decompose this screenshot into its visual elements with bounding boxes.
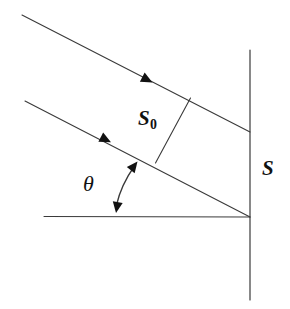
beam-width-label-base: S <box>138 106 150 130</box>
angle-arc-arrowhead-lower <box>111 201 123 213</box>
upper-beam-ray <box>22 15 250 132</box>
diagram-canvas: S0 S θ <box>0 0 290 309</box>
beam-width-label: S0 <box>138 108 157 132</box>
horizontal-reference-axis <box>44 217 250 218</box>
angle-arc-arrowhead-upper <box>127 158 142 173</box>
beam-width-segment <box>156 98 191 163</box>
beam-geometry-svg <box>0 0 290 309</box>
upper-ray-arrowhead <box>140 73 155 88</box>
angle-arc <box>117 166 135 205</box>
screen-width-label: S <box>262 158 274 179</box>
beam-width-label-subscript: 0 <box>150 117 157 132</box>
lower-ray-arrowhead <box>98 132 113 147</box>
angle-label: θ <box>83 173 94 195</box>
